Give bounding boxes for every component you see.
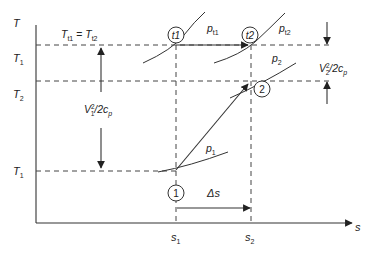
state-1-marker: 1 [168,185,184,201]
y-tick-t1: T1 [13,165,24,179]
delta-s-label: Δs [206,187,220,199]
stagnation-equality-label: Tt1 = Tt2 [61,28,98,42]
isobar-p1 [158,152,228,172]
y-tick-t2: T2 [13,88,24,102]
svg-text:2: 2 [259,84,265,95]
v1-kinetic-label: V21/2cp [84,103,112,118]
state-t1-marker: t1 [168,27,184,43]
process-line-1-to-2 [176,84,248,170]
t-s-diagram: T s T1 T2 T1 Tt1 = Tt2 V21/2cp V22/2cp p… [0,0,369,257]
v2-kinetic-label: V22/2cp [319,62,347,77]
isobar-label-p1: p1 [205,142,216,156]
isobar-label-pt1: pt1 [206,22,219,36]
state-2-marker: 2 [254,81,270,97]
isobar-label-p2: p2 [271,52,282,66]
x-axis-label: s [355,221,361,233]
svg-text:t1: t1 [172,30,180,41]
x-tick-s1: s1 [171,231,181,245]
x-tick-s2: s2 [245,231,255,245]
svg-text:t2: t2 [246,30,255,41]
isobar-label-pt2: pt2 [278,22,291,36]
y-axis-label: T [13,17,21,29]
y-tick-tt: T1 [13,52,24,66]
svg-text:1: 1 [173,188,179,199]
state-t2-marker: t2 [242,27,258,43]
